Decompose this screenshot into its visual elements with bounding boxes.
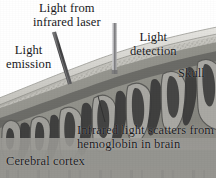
label-cerebral-cortex: Cerebral cortex — [6, 155, 85, 169]
detection-probe — [112, 23, 118, 74]
label-skull: Skull — [178, 67, 205, 81]
label-light-emission: Light emission — [6, 44, 51, 71]
near-infrared-brain-imaging-figure: Light from infrared laser Light emission… — [0, 0, 216, 178]
label-light-from-infrared-laser: Light from infrared laser — [33, 2, 101, 29]
label-infrared-light-scatters: Infrared light scatters from hemoglobin … — [77, 123, 214, 151]
label-light-detection: Light detection — [130, 31, 177, 58]
scanned-page-artifact — [0, 170, 216, 178]
